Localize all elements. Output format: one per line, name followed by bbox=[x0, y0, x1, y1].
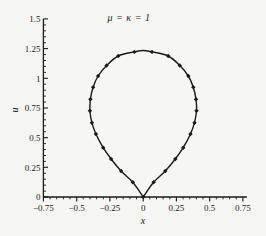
data-point-marker bbox=[94, 132, 98, 136]
x-tick-label: 0 bbox=[141, 203, 146, 213]
data-point-marker bbox=[88, 97, 92, 101]
data-point-marker bbox=[90, 121, 94, 125]
x-tick-label: −0.75 bbox=[33, 203, 54, 213]
y-tick-label: 1.25 bbox=[25, 44, 41, 54]
x-axis-label: x bbox=[133, 215, 153, 226]
data-point-marker bbox=[194, 97, 198, 101]
data-point-marker bbox=[132, 50, 136, 54]
data-point-marker bbox=[188, 132, 192, 136]
y-tick-label: 0.75 bbox=[25, 103, 41, 113]
data-point-marker bbox=[192, 121, 196, 125]
x-tick-label: 0.75 bbox=[235, 203, 251, 213]
x-tick-label: −0.5 bbox=[69, 203, 86, 213]
loop-curve bbox=[90, 51, 197, 198]
y-tick-label: 1 bbox=[36, 74, 41, 84]
plot-title: μ = κ = 1 bbox=[86, 12, 172, 23]
y-tick-label: 0.5 bbox=[29, 133, 41, 143]
y-axis-label: u bbox=[9, 104, 21, 116]
figure: −0.75−0.5−0.2500.250.50.7500.250.50.7511… bbox=[0, 0, 266, 236]
x-tick-label: 0.25 bbox=[169, 203, 185, 213]
y-tick-label: 1.5 bbox=[29, 14, 41, 24]
data-point-marker bbox=[191, 85, 195, 89]
data-point-marker bbox=[91, 85, 95, 89]
plot-canvas: −0.75−0.5−0.2500.250.50.7500.250.50.7511… bbox=[0, 0, 266, 236]
x-tick-label: −0.25 bbox=[99, 203, 120, 213]
x-tick-label: 0.5 bbox=[204, 203, 216, 213]
data-point-marker bbox=[150, 50, 154, 54]
y-tick-label: 0 bbox=[36, 192, 41, 202]
y-tick-label: 0.25 bbox=[25, 163, 41, 173]
data-point-marker bbox=[194, 109, 198, 113]
data-point-marker bbox=[88, 109, 92, 113]
